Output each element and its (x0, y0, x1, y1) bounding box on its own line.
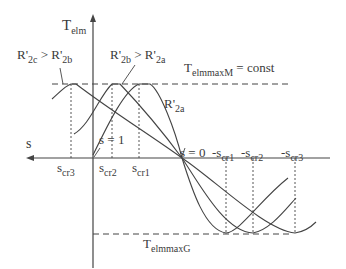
torque-slip-diagram (0, 0, 346, 269)
label-scr3: scr3 (57, 161, 75, 174)
label-neg-scr2: -scr2 (241, 146, 263, 159)
label-r2b-gt-r2a: R'2b > R'2a (110, 48, 165, 61)
leader-r2c (60, 68, 63, 84)
label-r2a: R'2a (164, 97, 184, 110)
slip-axis-label: s (26, 137, 31, 151)
leader-r2b (122, 65, 135, 84)
torque-axis-arrow-icon (90, 14, 96, 22)
label-tmax-motor: TelmmaxM = const (184, 61, 274, 74)
label-scr2: scr2 (99, 161, 117, 174)
label-scr1: scr1 (132, 161, 150, 174)
slip-axis-arrow-icon (26, 155, 34, 161)
label-tmax-gen: TelmmaxG (143, 237, 190, 250)
label-neg-scr1: -scr1 (212, 146, 234, 159)
label-s-eq-1: s = 1 (99, 133, 124, 146)
label-neg-scr3: -scr3 (281, 146, 303, 159)
torque-axis-label: Telm (62, 18, 86, 33)
label-r2c-gt-r2b: R'2c > R'2b (17, 48, 72, 61)
label-s-eq-0: s = 0 (180, 146, 205, 159)
leader-s1 (94, 148, 100, 157)
